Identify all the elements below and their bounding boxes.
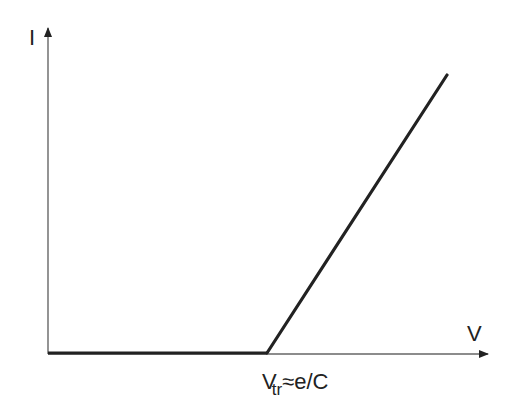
curve-linear-segment	[267, 75, 447, 353]
y-axis-label: I	[29, 25, 35, 50]
threshold-label: Vtr≈e/C	[262, 369, 329, 399]
threshold-label-rest: ≈e/C	[282, 369, 328, 394]
iv-diagram: I V Vtr≈e/C	[0, 0, 512, 413]
x-axis-label: V	[467, 321, 482, 346]
threshold-label-subscript: tr	[272, 380, 283, 399]
